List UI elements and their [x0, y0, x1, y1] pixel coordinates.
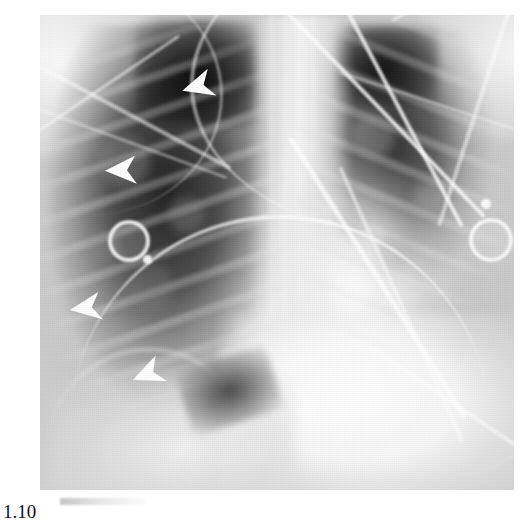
electrode-snap-left — [143, 255, 152, 264]
figure-caption: 1.10 — [3, 502, 203, 525]
figure-panel: 1.10 — [0, 0, 532, 525]
arrowhead-2 — [96, 154, 138, 189]
arrowhead-3 — [60, 290, 105, 328]
chest-radiograph-image — [40, 15, 514, 490]
electrode-snap-right — [481, 199, 491, 209]
tubing-arc-right — [290, 55, 514, 475]
ecg-electrode-right — [469, 218, 513, 262]
figure-caption-text: 1.10 — [3, 502, 203, 522]
